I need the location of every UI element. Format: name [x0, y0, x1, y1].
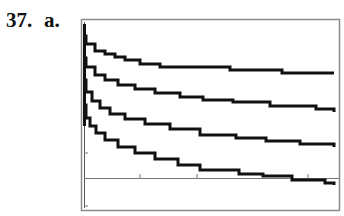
calculator-plot [0, 0, 344, 216]
curve-3 [84, 80, 334, 147]
curve-1 [84, 36, 334, 73]
curve-4 [84, 105, 334, 185]
curves [84, 24, 334, 185]
axis-ticks [84, 153, 308, 206]
